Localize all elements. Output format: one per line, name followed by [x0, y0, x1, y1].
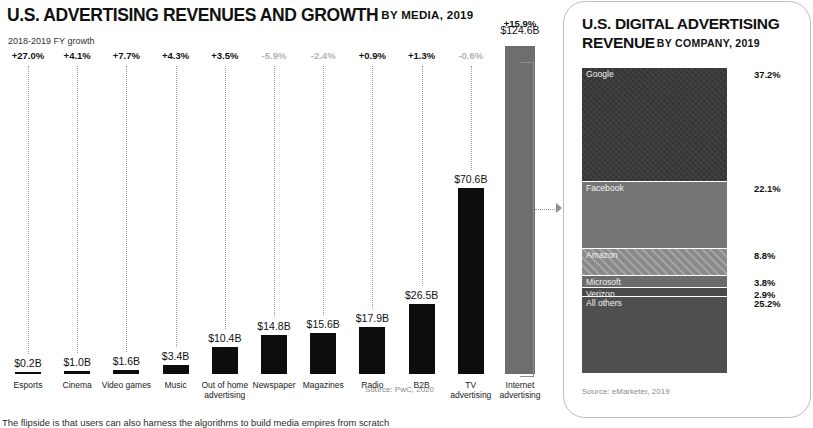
- stack-segment-label-facebook: Facebook: [586, 183, 624, 193]
- page-title: U.S. ADVERTISING REVENUES AND GROWTHBY M…: [7, 5, 473, 26]
- bar-value-esports: $0.2B: [14, 357, 41, 369]
- leader-line: [176, 66, 178, 347]
- bar-value-internet: $124.6B: [500, 24, 539, 36]
- leader-line: [422, 66, 424, 286]
- leader-line: [274, 66, 276, 317]
- stack-segment-label-microsoft: Microsoft: [586, 277, 621, 287]
- panel-title-subtitle: BY COMPANY, 2019: [657, 37, 760, 49]
- bar-video-games: [113, 370, 139, 374]
- bar-value-video-games: $1.6B: [113, 355, 140, 367]
- bar-esports: [15, 372, 41, 374]
- bar-value-music: $3.4B: [162, 350, 189, 362]
- bar-tv: [458, 188, 484, 374]
- leader-line: [372, 66, 374, 309]
- bar-out-of-home: [212, 347, 238, 374]
- stack-segment-pct-facebook: 22.1%: [754, 183, 781, 194]
- growth-label-music: +4.3%: [162, 50, 189, 61]
- bar-radio: [359, 327, 385, 374]
- bar-newspaper: [261, 335, 287, 374]
- stack-segment-pct-all-others: 25.2%: [754, 298, 781, 309]
- stack-segment-all-others: All others: [582, 297, 727, 374]
- growth-label-out-of-home: +3.5%: [211, 50, 238, 61]
- stack-segment-microsoft: Microsoft: [582, 276, 727, 288]
- growth-label-cinema: +4.1%: [64, 50, 91, 61]
- bar-cinema: [64, 371, 90, 374]
- bar-value-tv: $70.6B: [454, 173, 487, 185]
- growth-label-magazines: -2.4%: [311, 50, 336, 61]
- stack-segment-pct-google: 37.2%: [754, 69, 781, 80]
- company-share-stacked-bar: Google37.2%Facebook22.1%Amazon8.8%Micros…: [582, 68, 727, 374]
- category-label-internet: Internet advertising: [488, 380, 552, 400]
- connector-arrow-icon: [556, 203, 562, 213]
- leader-line: [28, 66, 30, 354]
- bar-music: [163, 365, 189, 374]
- leader-line: [471, 66, 473, 170]
- bar-value-newspaper: $14.8B: [257, 320, 290, 332]
- source-note-left: Source: PwC, 2020: [365, 385, 434, 394]
- source-note-right: Source: eMarketer, 2019: [582, 387, 670, 396]
- stack-segment-label-google: Google: [586, 69, 614, 79]
- bar-value-radio: $17.9B: [356, 312, 389, 324]
- bar-value-magazines: $15.6B: [307, 318, 340, 330]
- digital-revenue-panel: U.S. DIGITAL ADVERTISING REVENUEBY COMPA…: [563, 1, 811, 418]
- leader-line: [77, 66, 79, 353]
- growth-label-esports: +27.0%: [12, 50, 45, 61]
- bar-value-cinema: $1.0B: [63, 356, 90, 368]
- growth-label-newspaper: -5.9%: [262, 50, 287, 61]
- article-body-text: The flipside is that users can also harn…: [2, 417, 562, 428]
- stack-segment-google: Google: [582, 68, 727, 182]
- stack-segment-pct-amazon: 8.8%: [754, 250, 775, 261]
- panel-title: U.S. DIGITAL ADVERTISING REVENUEBY COMPA…: [582, 14, 797, 53]
- stack-segment-label-amazon: Amazon: [586, 250, 618, 260]
- leader-line: [126, 66, 128, 352]
- leader-line: [323, 66, 325, 315]
- stack-segment-facebook: Facebook: [582, 182, 727, 250]
- stack-segment-label-all-others: All others: [586, 298, 622, 308]
- internet-bracket: [520, 62, 534, 377]
- stack-segment-amazon: Amazon: [582, 249, 727, 276]
- growth-label-b2b: +1.3%: [408, 50, 435, 61]
- growth-label-tv: -0.6%: [458, 50, 483, 61]
- growth-label-radio: +0.9%: [359, 50, 386, 61]
- page-title-subtitle: BY MEDIA, 2019: [381, 9, 473, 21]
- bar-value-out-of-home: $10.4B: [208, 332, 241, 344]
- growth-values-row: +27.0%+4.1%+7.7%+4.3%+3.5%-5.9%-2.4%+0.9…: [0, 50, 563, 64]
- stack-segment-pct-microsoft: 3.8%: [754, 277, 775, 288]
- media-revenue-chart-panel: U.S. ADVERTISING REVENUES AND GROWTHBY M…: [0, 0, 563, 427]
- bar-value-b2b: $26.5B: [405, 289, 438, 301]
- stack-segment-verizon: Verizon: [582, 288, 727, 297]
- page-title-main: U.S. ADVERTISING REVENUES AND GROWTH: [7, 5, 378, 25]
- bar-b2b: [409, 304, 435, 374]
- leader-line: [225, 66, 227, 329]
- bar-magazines: [310, 333, 336, 374]
- growth-label-video-games: +7.7%: [113, 50, 140, 61]
- growth-row-caption: 2018-2019 FY growth: [8, 36, 94, 46]
